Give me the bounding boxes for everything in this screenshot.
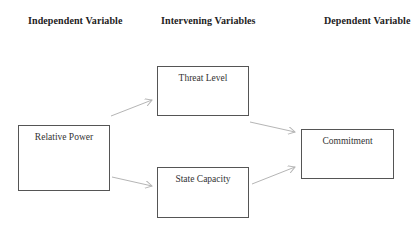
node-label: Threat Level — [158, 73, 248, 83]
header-independent-variable: Independent Variable — [28, 15, 123, 26]
node-label: Relative Power — [19, 132, 109, 142]
arrow-threat-level-to-commitment — [250, 122, 295, 132]
header-intervening-variables: Intervening Variables — [161, 15, 256, 26]
node-state-capacity: State Capacity — [157, 167, 249, 218]
node-label: Commitment — [302, 136, 393, 146]
arrow-relative-power-to-state-capacity — [112, 177, 152, 186]
node-relative-power: Relative Power — [18, 125, 110, 191]
arrow-state-capacity-to-commitment — [252, 167, 295, 184]
arrow-relative-power-to-threat-level — [111, 100, 152, 116]
node-commitment: Commitment — [301, 129, 394, 179]
header-dependent-variable: Dependent Variable — [324, 15, 411, 26]
node-threat-level: Threat Level — [157, 66, 249, 116]
node-label: State Capacity — [158, 174, 248, 184]
